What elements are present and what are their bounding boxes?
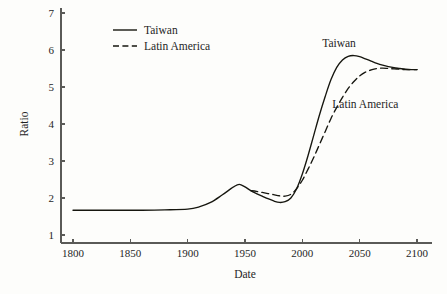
x-tick-label: 2100 xyxy=(406,247,429,259)
y-tick-label: 4 xyxy=(49,118,55,130)
x-tick-label: 1950 xyxy=(234,247,257,259)
annotation-latin-america: Latin America xyxy=(332,98,398,110)
legend-label-latin-america: Latin America xyxy=(144,40,210,52)
y-tick-label: 2 xyxy=(49,192,55,204)
x-axis-title: Date xyxy=(234,268,256,280)
series-line-latin-america xyxy=(251,68,417,196)
chart-legend: TaiwanLatin America xyxy=(113,24,210,52)
x-tick-label: 2000 xyxy=(291,247,314,259)
y-tick-label: 1 xyxy=(49,229,55,241)
legend-label-taiwan: Taiwan xyxy=(144,24,178,36)
x-tick-label: 2050 xyxy=(349,247,372,259)
x-tick-label: 1800 xyxy=(62,247,85,259)
y-tick-label: 7 xyxy=(49,7,55,19)
axes: 12345671800185019001950200020502100 xyxy=(49,7,433,259)
line-chart: 12345671800185019001950200020502100 Taiw… xyxy=(0,0,447,294)
annotation-taiwan: Taiwan xyxy=(322,37,356,49)
chart-container: 12345671800185019001950200020502100 Taiw… xyxy=(0,0,447,294)
x-tick-label: 1850 xyxy=(119,247,142,259)
y-tick-label: 5 xyxy=(49,81,55,93)
y-tick-label: 3 xyxy=(49,155,55,167)
y-tick-label: 6 xyxy=(49,44,55,56)
series-line-taiwan xyxy=(73,56,417,211)
y-axis-title: Ratio xyxy=(18,111,30,136)
series-lines xyxy=(73,56,417,211)
x-tick-label: 1900 xyxy=(177,247,200,259)
